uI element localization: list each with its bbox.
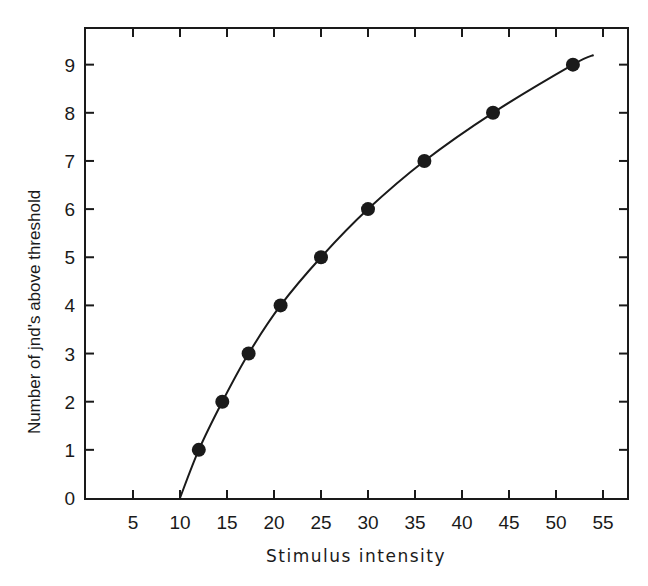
- y-tick-label: 0: [64, 488, 75, 509]
- y-tick-label: 4: [64, 295, 75, 316]
- x-tick-label: 35: [404, 512, 425, 533]
- data-point: [192, 443, 206, 457]
- data-point: [417, 154, 431, 168]
- y-tick-label: 1: [64, 440, 75, 461]
- plot-border: [85, 28, 628, 499]
- plot-frame: [85, 28, 628, 499]
- fitted-curve: [180, 55, 594, 498]
- x-tick-label: 15: [216, 512, 237, 533]
- x-tick-label: 30: [357, 512, 378, 533]
- chart: 510152025303540455055 0123456789 Stimulu…: [0, 0, 648, 586]
- y-tick-label: 5: [64, 247, 75, 268]
- y-tick-labels: 0123456789: [64, 55, 75, 509]
- data-point: [361, 202, 375, 216]
- y-tick-label: 3: [64, 344, 75, 365]
- data-point: [274, 298, 288, 312]
- data-point: [242, 347, 256, 361]
- x-tick-label: 50: [545, 512, 566, 533]
- data-point: [486, 106, 500, 120]
- x-tick-labels: 510152025303540455055: [128, 512, 614, 533]
- y-tick-label: 7: [64, 151, 75, 172]
- data-points: [192, 58, 580, 457]
- x-tick-label: 40: [451, 512, 472, 533]
- axis-ticks: [85, 28, 628, 499]
- x-tick-label: 5: [128, 512, 139, 533]
- x-tick-label: 25: [310, 512, 331, 533]
- y-axis-title: Number of jnd's above threshold: [25, 190, 44, 434]
- x-axis-title: Stimulus intensity: [266, 546, 446, 566]
- x-tick-label: 45: [498, 512, 519, 533]
- data-point: [215, 395, 229, 409]
- data-point: [566, 58, 580, 72]
- y-tick-label: 8: [64, 103, 75, 124]
- x-tick-label: 10: [169, 512, 190, 533]
- y-tick-label: 9: [64, 55, 75, 76]
- x-tick-label: 55: [592, 512, 613, 533]
- y-tick-label: 2: [64, 392, 75, 413]
- y-tick-label: 6: [64, 199, 75, 220]
- data-point: [314, 250, 328, 264]
- x-tick-label: 20: [263, 512, 284, 533]
